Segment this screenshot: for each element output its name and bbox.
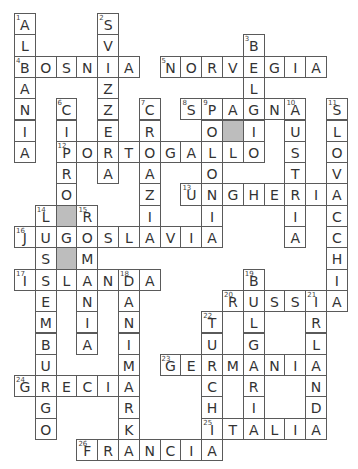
grid-cell[interactable]: R xyxy=(35,375,57,397)
grid-cell[interactable]: A xyxy=(118,290,140,312)
grid-cell[interactable]: M xyxy=(118,354,140,376)
grid-cell[interactable]: 25I xyxy=(201,418,223,440)
grid-cell[interactable]: N xyxy=(76,56,98,78)
grid-cell[interactable]: 12P xyxy=(56,141,78,163)
grid-cell[interactable]: O xyxy=(76,226,98,248)
grid-cell[interactable]: T xyxy=(118,141,140,163)
grid-cell[interactable]: G xyxy=(264,56,286,78)
grid-cell[interactable]: I xyxy=(305,183,327,205)
grid-cell[interactable]: I xyxy=(14,120,36,142)
grid-cell[interactable]: B xyxy=(35,333,57,355)
grid-cell[interactable]: H xyxy=(326,247,348,269)
grid-cell[interactable]: A xyxy=(139,269,161,291)
grid-cell[interactable]: L xyxy=(326,120,348,142)
grid-cell[interactable]: E xyxy=(56,375,78,397)
grid-cell[interactable]: L xyxy=(201,141,223,163)
grid-cell[interactable]: O xyxy=(180,56,202,78)
grid-cell[interactable]: 1A xyxy=(14,13,36,35)
grid-cell[interactable]: U xyxy=(284,120,306,142)
grid-cell[interactable]: A xyxy=(14,77,36,99)
grid-cell[interactable]: R xyxy=(97,439,119,461)
grid-cell[interactable]: U xyxy=(35,226,57,248)
grid-cell[interactable]: A xyxy=(118,439,140,461)
grid-cell[interactable]: C xyxy=(326,226,348,248)
grid-cell[interactable]: R xyxy=(97,141,119,163)
grid-cell[interactable]: I xyxy=(97,56,119,78)
grid-cell[interactable]: G xyxy=(35,396,57,418)
grid-cell[interactable]: O xyxy=(243,141,265,163)
grid-cell[interactable]: G xyxy=(56,226,78,248)
grid-cell[interactable]: S xyxy=(284,290,306,312)
grid-cell[interactable]: C xyxy=(201,375,223,397)
grid-cell[interactable]: A xyxy=(243,354,265,376)
grid-cell[interactable]: R xyxy=(305,311,327,333)
grid-cell[interactable]: M xyxy=(35,311,57,333)
grid-cell[interactable]: V xyxy=(97,34,119,56)
grid-cell[interactable]: C xyxy=(160,439,182,461)
grid-cell[interactable]: Z xyxy=(97,98,119,120)
grid-cell[interactable]: A xyxy=(180,141,202,163)
grid-cell[interactable]: I xyxy=(284,418,306,440)
grid-cell[interactable]: 21I xyxy=(305,290,327,312)
grid-cell[interactable]: L xyxy=(118,226,140,248)
grid-cell[interactable]: N xyxy=(118,311,140,333)
grid-cell[interactable]: O xyxy=(35,418,57,440)
grid-cell[interactable]: E xyxy=(97,120,119,142)
grid-cell[interactable]: L xyxy=(56,269,78,291)
grid-cell[interactable]: 10A xyxy=(284,98,306,120)
grid-cell[interactable]: N xyxy=(14,98,36,120)
grid-cell[interactable]: 11S xyxy=(326,98,348,120)
grid-cell[interactable]: L xyxy=(264,418,286,440)
grid-cell[interactable]: N xyxy=(305,375,327,397)
grid-cell[interactable]: V xyxy=(326,162,348,184)
grid-cell[interactable]: 2S xyxy=(97,13,119,35)
grid-cell[interactable]: I xyxy=(243,120,265,142)
grid-cell[interactable]: R xyxy=(201,56,223,78)
grid-cell[interactable]: A xyxy=(14,141,36,163)
grid-cell[interactable]: A xyxy=(222,98,244,120)
grid-cell[interactable]: O xyxy=(201,162,223,184)
grid-cell[interactable]: L xyxy=(243,311,265,333)
grid-cell[interactable]: V xyxy=(222,56,244,78)
grid-cell[interactable]: 3B xyxy=(243,34,265,56)
grid-cell[interactable]: N xyxy=(97,269,119,291)
grid-cell[interactable]: S xyxy=(97,226,119,248)
grid-cell[interactable]: 5N xyxy=(160,56,182,78)
grid-cell[interactable]: A xyxy=(76,333,98,355)
grid-cell[interactable]: 19B xyxy=(243,269,265,291)
grid-cell[interactable]: E xyxy=(243,56,265,78)
grid-cell[interactable]: 18D xyxy=(118,269,140,291)
grid-cell[interactable]: A xyxy=(284,226,306,248)
grid-cell[interactable]: O xyxy=(35,56,57,78)
grid-cell[interactable]: 22T xyxy=(201,311,223,333)
grid-cell[interactable]: D xyxy=(305,396,327,418)
grid-cell[interactable]: A xyxy=(305,354,327,376)
grid-cell[interactable]: H xyxy=(243,183,265,205)
grid-cell[interactable]: 15R xyxy=(76,205,98,227)
grid-cell[interactable]: E xyxy=(264,183,286,205)
grid-cell[interactable]: A xyxy=(201,439,223,461)
grid-cell[interactable]: I xyxy=(243,396,265,418)
grid-cell[interactable]: L xyxy=(243,77,265,99)
grid-cell[interactable]: A xyxy=(305,418,327,440)
grid-cell[interactable]: S xyxy=(284,141,306,163)
grid-cell[interactable]: A xyxy=(97,162,119,184)
grid-cell[interactable]: A xyxy=(118,56,140,78)
grid-cell[interactable]: N xyxy=(76,290,98,312)
grid-cell[interactable]: 14L xyxy=(35,205,57,227)
grid-cell[interactable]: 20R xyxy=(222,290,244,312)
grid-cell[interactable]: L xyxy=(14,34,36,56)
grid-cell[interactable]: A xyxy=(305,56,327,78)
grid-cell[interactable]: O xyxy=(76,141,98,163)
grid-cell[interactable]: Z xyxy=(139,183,161,205)
grid-cell[interactable]: A xyxy=(243,418,265,440)
grid-cell[interactable]: I xyxy=(284,56,306,78)
grid-cell[interactable]: A xyxy=(326,290,348,312)
grid-cell[interactable]: Z xyxy=(97,77,119,99)
grid-cell[interactable]: V xyxy=(160,226,182,248)
grid-cell[interactable]: I xyxy=(56,120,78,142)
grid-cell[interactable]: I xyxy=(139,205,161,227)
grid-cell[interactable]: I xyxy=(97,375,119,397)
grid-cell[interactable]: 26F xyxy=(76,439,98,461)
grid-cell[interactable]: E xyxy=(35,290,57,312)
